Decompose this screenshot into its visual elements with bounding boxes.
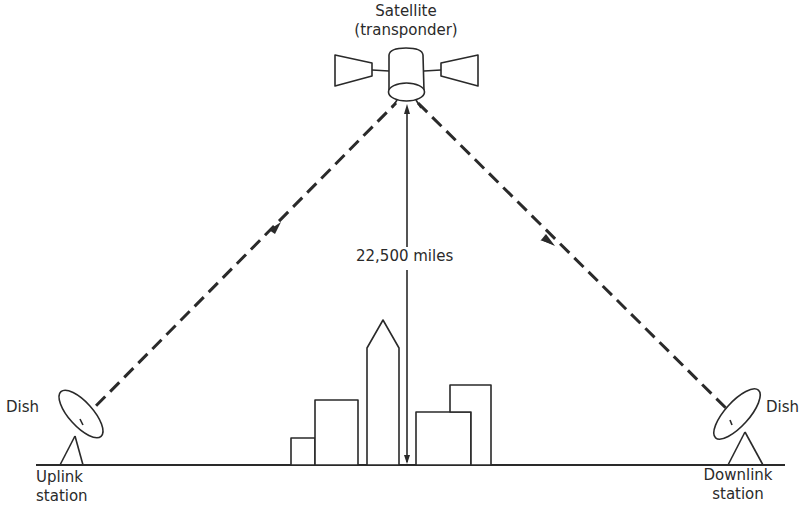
uplink-station-line1: Uplink [36, 468, 88, 487]
satellite-diagram: Satellite (transponder) 22,500 miles Dis… [0, 0, 808, 518]
city-buildings-icon [291, 320, 491, 465]
downlink-dish-label: Dish [766, 398, 799, 417]
satellite-label-line1: Satellite [350, 2, 462, 21]
uplink-station-line2: station [36, 487, 88, 506]
downlink-dish-icon [707, 382, 768, 465]
downlink-station-label: Downlink station [698, 466, 778, 504]
uplink-dish-icon [52, 384, 110, 465]
uplink-beam [82, 103, 396, 420]
satellite-icon [335, 48, 478, 108]
uplink-dish-label: Dish [6, 398, 39, 417]
distance-arrow [404, 104, 410, 464]
downlink-beam [418, 103, 738, 420]
distance-label: 22,500 miles [356, 247, 453, 266]
satellite-label-line2: (transponder) [350, 21, 462, 40]
satellite-label: Satellite (transponder) [350, 2, 462, 40]
downlink-station-line1: Downlink [698, 466, 778, 485]
uplink-station-label: Uplink station [36, 468, 88, 506]
downlink-station-line2: station [698, 485, 778, 504]
